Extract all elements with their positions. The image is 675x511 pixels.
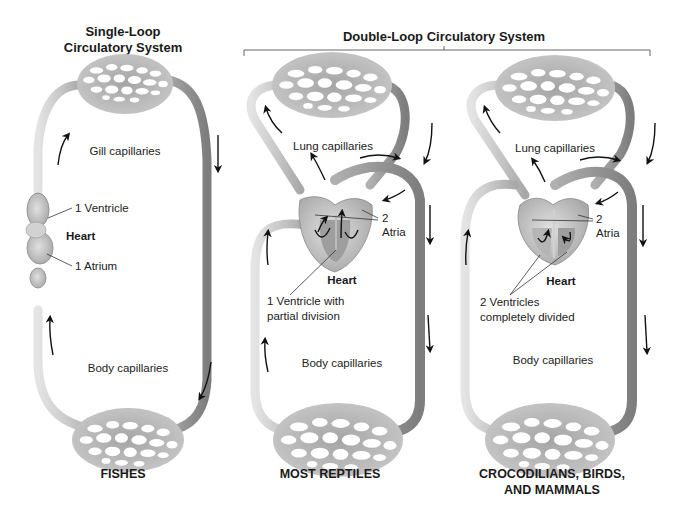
- fishes-caption: FISHES: [100, 467, 145, 481]
- flow-arrow-icon: [425, 123, 432, 162]
- reptile-atria-count: 2: [382, 212, 388, 224]
- gill-capillary-bed: [77, 54, 173, 114]
- panel-crocodilians-birds-mammals: Lung capillaries 2 Atria Heart 2 Ventric…: [465, 55, 655, 497]
- reptile-lung-capillaries-label: Lung capillaries: [293, 140, 373, 152]
- flow-arrow-icon: [312, 155, 325, 180]
- mammal-body-capillary-bed: [485, 403, 615, 477]
- fish-heart: [26, 193, 53, 288]
- fish-body-capillary-bed: [72, 408, 184, 472]
- reptile-heart: [299, 197, 372, 272]
- crocodilians-caption-line2: AND MAMMALS: [504, 483, 600, 497]
- mammal-ventricle-label-line1: 2 Ventricles: [480, 296, 540, 308]
- fish-ventricle-label: 1 Ventricle: [75, 202, 129, 214]
- flow-arrow-icon: [645, 315, 647, 352]
- crocodilians-caption-line1: CROCODILIANS, BIRDS,: [479, 467, 625, 481]
- mammal-heart-label: Heart: [546, 275, 576, 287]
- flow-arrow-icon: [266, 108, 282, 133]
- reptile-ventricle-label-line2: partial division: [267, 310, 340, 322]
- reptile-body-capillary-bed: [273, 403, 403, 477]
- fish-efferent-vessel: [160, 80, 207, 432]
- mammal-ventricle-label-line2: completely divided: [480, 311, 575, 323]
- single-loop-title-line2: Circulatory System: [64, 40, 183, 55]
- fish-atrium-label: 1 Atrium: [75, 260, 117, 272]
- flow-arrow-icon: [485, 108, 500, 133]
- flow-arrow-icon: [648, 123, 655, 162]
- mammal-atria-count: 2: [596, 213, 602, 225]
- single-loop-title-line1: Single-Loop: [85, 24, 160, 39]
- double-loop-bracket: [244, 46, 650, 56]
- ventricle-leader-line: [510, 255, 540, 295]
- reptile-ventricle-label-line1: 1 Ventricle with: [267, 295, 344, 307]
- mammal-lung-capillary-bed: [495, 55, 615, 121]
- mammal-vena-cava: [465, 184, 515, 435]
- flow-arrow-icon: [50, 318, 53, 355]
- panel-fishes: 1 Ventricle Heart 1 Atrium Gill capillar…: [26, 54, 218, 481]
- atrium-leader-line: [47, 254, 72, 266]
- reptile-body-capillaries-label: Body capillaries: [302, 357, 383, 369]
- mammal-atria-label: Atria: [596, 227, 620, 239]
- fish-body-capillaries-label: Body capillaries: [88, 362, 169, 374]
- ventricle-leader-line: [48, 208, 72, 218]
- panel-most-reptiles: Lung capillaries 2 Atria Heart 1 Ventric…: [251, 52, 432, 481]
- gill-capillaries-label: Gill capillaries: [90, 145, 161, 157]
- most-reptiles-caption: MOST REPTILES: [280, 467, 381, 481]
- ventricle-leader-line: [510, 252, 567, 295]
- flow-arrow-icon: [533, 160, 545, 182]
- flow-arrow-icon: [385, 190, 405, 200]
- mammal-heart: [518, 198, 589, 265]
- reptile-atria-label: Atria: [382, 226, 406, 238]
- double-loop-title: Double-Loop Circulatory System: [343, 29, 545, 44]
- flow-arrow-icon: [598, 192, 618, 203]
- lung-capillary-bed: [272, 52, 392, 118]
- flow-arrow-icon: [58, 135, 68, 165]
- reptile-heart-label: Heart: [327, 274, 357, 286]
- fish-heart-label: Heart: [66, 230, 96, 242]
- single-loop-title: Single-Loop Circulatory System: [64, 24, 183, 55]
- mammal-lung-capillaries-label: Lung capillaries: [515, 142, 595, 154]
- reptile-vena-cava: [255, 224, 305, 435]
- flow-arrow-icon: [265, 340, 268, 372]
- flow-arrow-icon: [267, 232, 268, 265]
- fish-afferent-vessel: [38, 85, 80, 190]
- circulatory-systems-diagram: Single-Loop Circulatory System Double-Lo…: [0, 0, 675, 511]
- mammal-body-capillaries-label: Body capillaries: [513, 354, 594, 366]
- flow-arrow-icon: [428, 315, 430, 350]
